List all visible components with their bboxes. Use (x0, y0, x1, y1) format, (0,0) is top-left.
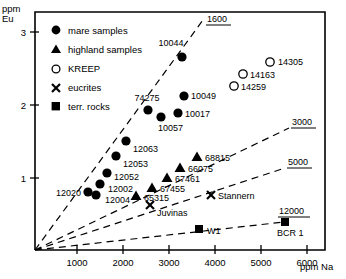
data-point-marker (175, 163, 186, 173)
data-point-marker (192, 152, 203, 162)
data-point-marker (173, 108, 182, 117)
data-point-label: 10057 (158, 123, 183, 133)
data-point-marker (102, 168, 111, 177)
ratio-line-label-1600: 1600 (207, 14, 227, 24)
legend-label-kreep: KREEP (68, 63, 100, 74)
data-point-label: 67461 (175, 174, 200, 184)
series-terr-rocks: W1 BCR 1 (195, 218, 304, 238)
scatter-plot-figure: ppmEu ppm Na 1 2 3 1000 2000 3000 4000 5… (0, 0, 346, 279)
data-point-label: 12020 (56, 188, 81, 198)
ratio-line-label-5000: 5000 (288, 157, 308, 167)
x-tick-label-4000: 4000 (204, 257, 225, 268)
data-point-label: 66075 (188, 164, 213, 174)
legend-symbol-terr-rocks (52, 102, 60, 110)
data-point-label: 12053 (123, 159, 148, 169)
data-point-marker (239, 70, 247, 78)
data-point-label: 12063 (133, 144, 158, 154)
ratio-line-label-3000: 3000 (292, 117, 312, 127)
data-point-marker (177, 52, 186, 61)
data-point-label: 74275 (134, 93, 159, 103)
legend-symbol-eucrites (52, 84, 60, 92)
x-tick-label-5000: 5000 (250, 257, 271, 268)
data-point-label: 12002 (108, 184, 133, 194)
data-point-label: BCR 1 (277, 228, 304, 238)
plot-area: 1 2 3 1000 2000 3000 4000 5000 6000 1600 (0, 0, 346, 279)
x-tick-label-3000: 3000 (158, 257, 179, 268)
x-tick-label-2000: 2000 (112, 257, 133, 268)
data-point-marker (83, 187, 92, 196)
series-kreep: 14305 14163 14259 (230, 57, 303, 92)
data-point-marker (266, 58, 274, 66)
legend-symbol-mare-samples (52, 26, 61, 35)
data-point-label: 10044 (158, 38, 183, 48)
data-point-label: 68815 (205, 153, 230, 163)
data-point-label: W1 (207, 226, 221, 236)
data-point-marker (162, 173, 173, 183)
y-axis-ticks: 1 2 3 (21, 27, 39, 184)
legend-label-highland-samples: highland samples (68, 44, 142, 55)
x-axis-ticks: 1000 2000 3000 4000 5000 6000 (66, 245, 317, 268)
legend: mare samples highland samples KREEP eucr… (51, 25, 142, 112)
legend-symbol-kreep (52, 65, 60, 73)
x-tick-label-1000: 1000 (66, 257, 87, 268)
data-point-marker (121, 136, 130, 145)
data-point-label: 14259 (241, 82, 266, 92)
data-point-label: Juvinas (157, 208, 188, 218)
legend-label-eucrites: eucrites (68, 82, 102, 93)
data-point-label: 10017 (185, 109, 210, 119)
data-point-marker (195, 225, 203, 233)
x-tick-label-6000: 6000 (296, 257, 317, 268)
legend-label-terr-rocks: terr. rocks (68, 101, 110, 112)
data-point-marker (147, 183, 158, 193)
data-point-marker (281, 218, 289, 226)
data-point-label: Stannern (218, 191, 255, 201)
data-point-marker (143, 105, 152, 114)
data-point-label: 10049 (191, 91, 216, 101)
data-point-label: 14305 (278, 57, 303, 67)
data-point-marker (91, 190, 100, 199)
legend-symbol-highland-samples (51, 45, 61, 53)
ratio-line-12000 (35, 222, 284, 250)
legend-label-mare-samples: mare samples (68, 25, 128, 36)
data-point-marker (156, 112, 165, 121)
data-point-marker (95, 179, 104, 188)
data-point-marker (230, 82, 238, 90)
data-point-marker (179, 91, 188, 100)
y-tick-label-2: 2 (21, 100, 26, 111)
y-tick-label-3: 3 (21, 27, 26, 38)
data-point-marker (111, 151, 120, 160)
data-point-label: 14163 (250, 70, 275, 80)
y-tick-label-1: 1 (21, 173, 26, 184)
ratio-line-label-12000: 12000 (279, 206, 304, 216)
data-point-label: 12004 (105, 195, 130, 205)
data-point-label: 12052 (114, 172, 139, 182)
